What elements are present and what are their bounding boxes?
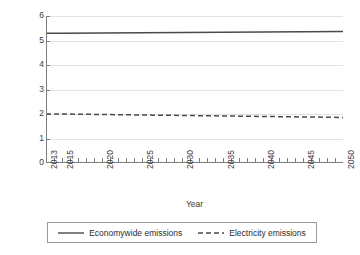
x-tick-label: 2030 [186,150,195,169]
legend-swatch-solid-line [58,229,84,237]
x-tick-label: 2035 [227,150,236,169]
x-tick-label: 2050 [347,150,356,169]
x-tick-label: 2013 [50,150,59,169]
x-tick-label: 2015 [66,150,75,169]
x-tick-label: 2040 [267,150,276,169]
chart-legend: Economywide emissions Electricity emissi… [47,222,317,243]
legend-swatch-dashed-line [198,229,224,237]
x-tick-label: 2025 [146,150,155,169]
x-tick-label: 2020 [106,150,115,169]
x-tick-label: 2045 [307,150,316,169]
legend-item-economywide: Economywide emissions [58,228,182,238]
emissions-line-chart: Billions of metric tons 0123456 20132015… [0,0,360,255]
x-axis-title: Year [46,199,343,209]
legend-item-electricity: Electricity emissions [198,228,306,238]
x-axis-tick-labels: 201320152020202520302035204020452050 [0,0,360,255]
legend-label-economywide: Economywide emissions [89,228,182,238]
legend-label-electricity: Electricity emissions [229,228,306,238]
